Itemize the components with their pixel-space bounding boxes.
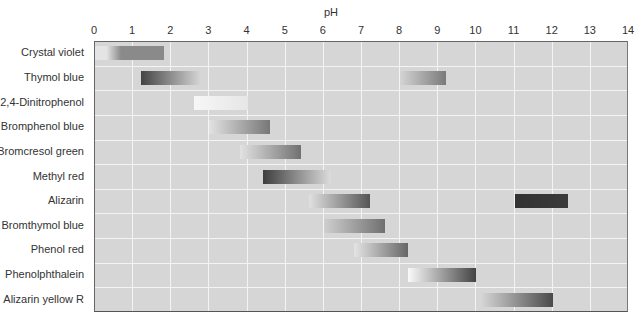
ph-transition-range-bar	[400, 71, 446, 85]
ph-transition-range-bar	[515, 194, 568, 208]
horizontal-gridline	[95, 287, 627, 288]
vertical-gridline	[132, 42, 133, 311]
x-tick-label: 1	[129, 24, 135, 36]
vertical-gridline	[552, 42, 553, 311]
x-tick-label: 2	[167, 24, 173, 36]
ph-transition-range-bar	[408, 268, 477, 282]
horizontal-gridline	[95, 164, 627, 165]
indicator-label: Bromthymol blue	[1, 219, 84, 231]
indicator-ph-range-chart: pH 01234567891011121314 Crystal violetTh…	[0, 0, 644, 324]
ph-transition-range-bar	[480, 293, 552, 307]
ph-transition-range-bar	[240, 145, 301, 159]
indicator-label: 2,4-Dinitrophenol	[0, 96, 84, 108]
indicator-label: Alizarin	[48, 194, 84, 206]
ph-transition-range-bar	[324, 219, 385, 233]
vertical-gridline	[208, 42, 209, 311]
x-tick-label: 5	[282, 24, 288, 36]
ph-transition-range-bar	[141, 71, 202, 85]
x-tick-label: 11	[508, 24, 519, 36]
x-tick-label: 0	[91, 24, 97, 36]
indicator-label: Phenol red	[31, 243, 84, 255]
plot-area	[94, 41, 628, 312]
x-tick-label: 10	[469, 24, 481, 36]
ph-transition-range-bar	[209, 120, 270, 134]
x-tick-label: 3	[205, 24, 211, 36]
indicator-label: Methyl red	[33, 170, 84, 182]
x-tick-label: 12	[546, 24, 558, 36]
x-tick-label: 7	[358, 24, 364, 36]
ph-transition-range-bar	[309, 194, 370, 208]
horizontal-gridline	[95, 115, 627, 116]
horizontal-gridline	[95, 66, 627, 67]
horizontal-gridline	[95, 189, 627, 190]
x-tick-label: 8	[396, 24, 402, 36]
vertical-gridline	[590, 42, 591, 311]
ph-transition-range-bar	[354, 243, 407, 257]
indicator-label: Bromphenol blue	[1, 120, 84, 132]
x-tick-label: 4	[244, 24, 250, 36]
horizontal-gridline	[95, 238, 627, 239]
vertical-gridline	[361, 42, 362, 311]
horizontal-gridline	[95, 263, 627, 264]
ph-transition-range-bar	[95, 46, 164, 60]
horizontal-gridline	[95, 213, 627, 214]
indicator-label: Phenolphthalein	[5, 268, 84, 280]
x-tick-label: 9	[434, 24, 440, 36]
horizontal-gridline	[95, 90, 627, 91]
horizontal-gridline	[95, 140, 627, 141]
indicator-label: Bromcresol green	[0, 145, 84, 157]
x-axis-title: pH	[324, 6, 338, 18]
x-tick-label: 14	[622, 24, 634, 36]
indicator-label: Thymol blue	[24, 71, 84, 83]
vertical-gridline	[514, 42, 515, 311]
indicator-label: Alizarin yellow R	[3, 293, 84, 305]
x-tick-label: 6	[320, 24, 326, 36]
x-tick-label: 13	[584, 24, 596, 36]
indicator-label: Crystal violet	[21, 46, 84, 58]
vertical-gridline	[247, 42, 248, 311]
ph-transition-range-bar	[194, 96, 247, 110]
ph-transition-range-bar	[263, 170, 332, 184]
